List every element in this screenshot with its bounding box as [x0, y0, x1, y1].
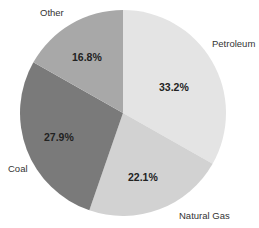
pie-slices [20, 10, 226, 216]
pct-other: 16.8% [72, 51, 102, 63]
label-other: Other [40, 7, 64, 18]
label-coal: Coal [8, 163, 28, 174]
pct-petroleum: 33.2% [159, 81, 189, 93]
pie-chart: Other Petroleum Coal Natural Gas 16.8% 3… [0, 0, 259, 228]
label-petroleum: Petroleum [212, 38, 255, 49]
pct-coal: 27.9% [44, 131, 74, 143]
pct-natural-gas: 22.1% [128, 171, 158, 183]
label-natural-gas: Natural Gas [179, 210, 230, 221]
